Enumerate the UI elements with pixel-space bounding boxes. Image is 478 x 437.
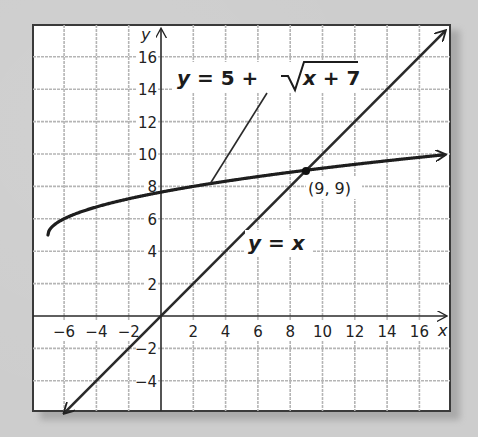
x-tick-label: 8 (285, 323, 295, 341)
curve-equation-radicand: x + 7 (302, 66, 361, 90)
x-tick-label: −6 (53, 323, 75, 341)
sqrt-curve-arrow (436, 155, 446, 156)
y-tick-label: 16 (138, 49, 157, 67)
line-equation-label: y = x (248, 231, 306, 255)
curve-equation-label: y = 5 + (177, 66, 258, 90)
line-eq-y: y (248, 231, 262, 255)
curve-eq-mid: = 5 + (190, 66, 258, 90)
x-tick-label: −2 (118, 323, 140, 341)
y-tick-label: 14 (138, 81, 157, 99)
x-tick-label: 2 (189, 323, 199, 341)
y-tick-label: 6 (147, 211, 157, 229)
chart: −6−4−2246810121416−4−2246810121416 y = 5… (0, 0, 478, 437)
x-axis-label: x (437, 321, 448, 340)
curve-eq-x: x (302, 66, 317, 90)
line-eq-x: x (291, 231, 306, 255)
x-tick-label: 14 (378, 323, 397, 341)
curve-eq-tail: + 7 (316, 66, 361, 90)
x-tick-label: 6 (253, 323, 263, 341)
x-tick-label: 4 (221, 323, 231, 341)
y-axis-label: y (140, 25, 151, 44)
tick-labels: −6−4−2246810121416−4−2246810121416 (53, 49, 429, 391)
x-tick-label: 16 (410, 323, 429, 341)
line-eq-mid: = (261, 231, 292, 255)
curve-eq-y: y (177, 66, 191, 90)
series-layer (48, 155, 444, 235)
y-tick-label: 4 (147, 243, 157, 261)
y-tick-label: 2 (147, 276, 157, 294)
y-tick-label: 10 (138, 146, 157, 164)
x-tick-label: 12 (345, 323, 364, 341)
y-tick-label: 12 (138, 114, 157, 132)
intersection-label: (9, 9) (308, 179, 351, 198)
y-tick-label: −2 (135, 340, 157, 358)
y-tick-label: −4 (135, 373, 157, 391)
intersection-point (302, 167, 310, 175)
x-tick-label: −4 (85, 323, 107, 341)
sqrt-curve (48, 155, 444, 235)
x-tick-label: 10 (313, 323, 332, 341)
